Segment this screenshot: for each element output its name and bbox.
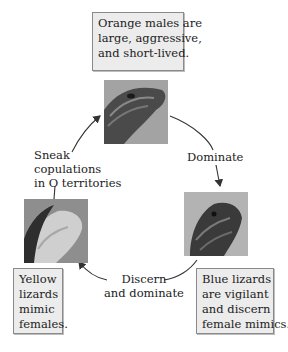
arrow-sneak-to-orange bbox=[72, 116, 100, 152]
blue-lizard-photo bbox=[184, 192, 248, 256]
arrow-blue-to-yellow-left bbox=[79, 262, 107, 280]
yellow-lizard-photo bbox=[24, 199, 88, 263]
discern-and-dominate-label: Discern and dominate bbox=[104, 272, 184, 300]
dominate-label: Dominate bbox=[187, 150, 243, 164]
arrow-orange-to-blue bbox=[170, 116, 213, 150]
lizard-head-icon bbox=[184, 192, 248, 256]
lizard-head-icon bbox=[24, 199, 88, 263]
arrow-dominate-down bbox=[216, 165, 220, 186]
yellow-morph-description: Yellow lizards mimic females. bbox=[13, 268, 63, 334]
orange-line-2: large, aggressive, bbox=[98, 31, 178, 46]
orange-line-1: Orange males are bbox=[98, 16, 178, 31]
orange-line-3: and short-lived. bbox=[98, 46, 178, 61]
blue-morph-description: Blue lizards are vigilant and discern fe… bbox=[196, 268, 274, 334]
sneak-copulations-label: Sneak copulations in O territories bbox=[34, 148, 121, 190]
orange-morph-description: Orange males are large, aggressive, and … bbox=[92, 12, 184, 71]
orange-lizard-photo bbox=[104, 80, 168, 144]
lizard-head-icon bbox=[104, 80, 168, 144]
